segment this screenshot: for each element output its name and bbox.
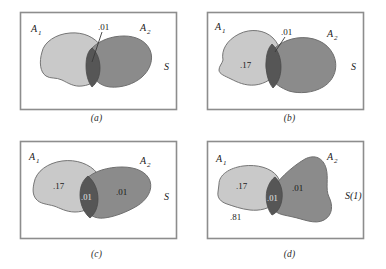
panel-caption: (b) [193, 113, 386, 123]
probability-label-intersection: .01 [98, 22, 109, 32]
set-a2-label: A [139, 155, 147, 166]
sample-space-label: S [351, 61, 356, 72]
set-a2-subscript: 2 [147, 28, 151, 36]
set-a1-label: A [28, 151, 36, 162]
set-a2-label: A [326, 151, 334, 162]
set-a2-label: A [139, 22, 147, 33]
probability-label-intersection: .01 [281, 27, 292, 37]
probability-label-a1-only: .17 [236, 181, 248, 191]
set-a2-subscript: 2 [147, 161, 151, 169]
set-a2-label: A [326, 28, 334, 39]
panel-a: A 1 A 2 .01 S (a) [0, 0, 193, 134]
probability-label-a1-only: .17 [53, 181, 65, 191]
panel-caption: (d) [193, 249, 386, 259]
set-a1-subscript: 1 [222, 27, 226, 35]
panel-caption: (c) [0, 249, 193, 259]
probability-label-outside: .81 [230, 212, 241, 222]
sample-space-label: S [164, 61, 169, 72]
set-a1-label: A [215, 153, 223, 164]
probability-label-intersection: .01 [81, 192, 92, 202]
panel-caption: (a) [0, 113, 193, 123]
panel-b: A 1 A 2 .17 .01 S (b) [193, 0, 386, 134]
figure-grid: A 1 A 2 .01 S (a) A 1 [0, 0, 386, 269]
sample-space-label: S [164, 191, 169, 202]
set-a1-subscript: 1 [36, 157, 40, 165]
probability-label-intersection: .01 [267, 193, 278, 203]
panel-d: A 1 A 2 .17 .01 .01 .81 S(1) (d) [193, 135, 386, 269]
sample-space-label: S(1) [345, 190, 362, 202]
set-a1-subscript: 1 [223, 159, 227, 167]
set-a1-label: A [30, 23, 38, 34]
set-a1-label: A [214, 21, 222, 32]
probability-label-a2-only: .01 [116, 187, 127, 197]
set-a1-subscript: 1 [38, 29, 42, 37]
probability-label-a2-only: .01 [292, 183, 303, 193]
panel-c: A 1 A 2 .17 .01 .01 S (c) [0, 135, 193, 269]
set-a2-subscript: 2 [334, 157, 338, 165]
probability-label-a1-only: .17 [240, 60, 252, 70]
set-a2-subscript: 2 [334, 34, 338, 42]
